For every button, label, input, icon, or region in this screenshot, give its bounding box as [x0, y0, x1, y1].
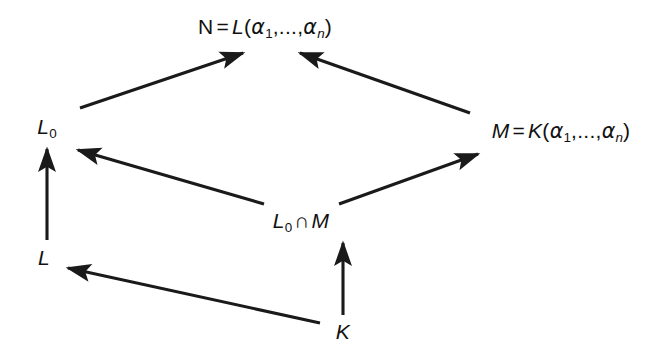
- node-label-L0-cap-M: L0∩M: [273, 209, 330, 235]
- node-M-base: M: [492, 119, 510, 142]
- edge-m-to-n: [300, 53, 470, 113]
- node-M-close-paren: ): [623, 119, 630, 142]
- node-N-sub-1: 1: [265, 26, 272, 41]
- node-N-alpha-n: α: [303, 15, 317, 39]
- edges-group: [47, 53, 478, 323]
- node-N-alpha-1: α: [251, 15, 265, 39]
- edge-k-to-l: [68, 268, 320, 323]
- node-M-ellipsis: ,...,: [571, 119, 602, 142]
- node-N-base: N: [198, 15, 213, 38]
- node-label-K: K: [336, 320, 350, 344]
- node-L0-base: L: [37, 115, 49, 138]
- edge-cap-to-m: [339, 154, 478, 204]
- node-label-M: M=K(α1,...,αn): [492, 119, 631, 145]
- edge-l0-to-n: [80, 53, 243, 108]
- edge-cap-to-l0: [78, 150, 264, 204]
- node-label-L0: L0: [37, 115, 56, 141]
- node-N-ellipsis: ,...,: [273, 15, 304, 38]
- node-M-open-paren: (: [542, 119, 549, 142]
- node-K-base: K: [336, 320, 350, 343]
- node-N-sub-n: n: [317, 26, 324, 41]
- node-M-alpha-n: α: [602, 119, 616, 143]
- field-extension-diagram: N=L(α1,...,αn) L0 M=K(α1,...,αn) L0∩M L …: [0, 0, 666, 360]
- node-N-equals: =: [213, 15, 232, 38]
- node-N-close-paren: ): [325, 15, 332, 38]
- node-label-L: L: [38, 246, 50, 270]
- intersection-icon: ∩: [292, 209, 311, 232]
- node-N-field: L: [232, 15, 244, 38]
- node-L-base: L: [38, 246, 50, 269]
- node-M-alpha-1: α: [550, 119, 564, 143]
- node-cap-base: L: [273, 209, 285, 232]
- node-M-equals: =: [509, 119, 528, 142]
- node-M-field: K: [528, 119, 542, 142]
- node-cap-second: M: [312, 209, 330, 232]
- node-L0-sub: 0: [49, 126, 56, 141]
- arrow-layer: [0, 0, 666, 360]
- node-label-N: N=L(α1,...,αn): [198, 15, 332, 41]
